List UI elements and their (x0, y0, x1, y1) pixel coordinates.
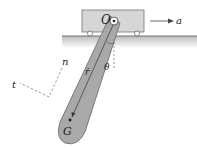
label-t: t (12, 79, 17, 90)
nt-axes (20, 68, 62, 97)
label-G: G (63, 125, 72, 138)
ground (62, 36, 197, 48)
label-a: a (176, 15, 182, 26)
label-n: n (62, 56, 68, 67)
pendulum-cart-diagram: O a θ n t r̄ G (0, 0, 197, 148)
cart-wheel-left (88, 31, 93, 36)
label-O: O (101, 13, 111, 27)
label-theta: θ (104, 62, 110, 72)
acceleration-arrow (150, 19, 174, 24)
pivot-pin (110, 17, 118, 25)
center-of-mass-point (69, 119, 72, 122)
cart-wheel-right (135, 31, 140, 36)
